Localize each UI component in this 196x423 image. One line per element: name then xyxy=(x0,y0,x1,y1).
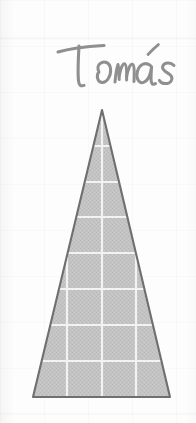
triangle-figure-svg xyxy=(0,0,196,423)
worksheet-scan: Tomás xyxy=(0,0,196,423)
triangle-figure xyxy=(0,0,196,423)
